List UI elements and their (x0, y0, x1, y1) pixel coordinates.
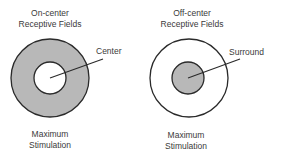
on-center-caption-line2: Stimulation (14, 140, 86, 151)
off-center-title-line1: Off-center (154, 8, 230, 19)
on-center-receptive-field (11, 39, 103, 117)
off-center-title: Off-center Receptive Fields (154, 8, 230, 30)
off-center-title-line2: Receptive Fields (154, 19, 230, 30)
on-center-caption-line1: Maximum (14, 129, 86, 140)
on-center-caption: Maximum Stimulation (14, 129, 86, 151)
off-center-caption: Maximum Stimulation (150, 130, 222, 152)
surround-callout-label: Surround (229, 47, 264, 58)
off-center-caption-line1: Maximum (150, 130, 222, 141)
center-callout-label: Center (96, 46, 122, 57)
on-center-title-line1: On-center (14, 8, 86, 19)
off-center-caption-line2: Stimulation (150, 141, 222, 152)
off-center-receptive-field (150, 39, 240, 117)
on-center-title: On-center Receptive Fields (14, 8, 86, 30)
on-center-title-line2: Receptive Fields (14, 19, 86, 30)
